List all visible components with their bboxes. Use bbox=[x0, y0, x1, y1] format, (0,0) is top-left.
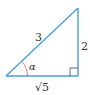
hypotenuse-label: 3 bbox=[35, 31, 42, 44]
hypotenuse-edge bbox=[6, 8, 78, 76]
right-triangle-diagram: 3 2 α √5 bbox=[0, 0, 90, 95]
adjacent-label: √5 bbox=[35, 81, 49, 94]
right-angle-marker bbox=[70, 68, 78, 76]
angle-label: α bbox=[29, 61, 36, 72]
angle-arc bbox=[22, 61, 28, 76]
opposite-label: 2 bbox=[81, 40, 88, 53]
